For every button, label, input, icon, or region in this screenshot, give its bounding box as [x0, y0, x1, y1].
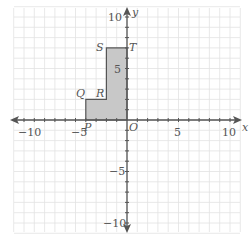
- y-axis-label: y: [131, 6, 139, 19]
- y-tick-label-neg10: −10: [103, 217, 126, 230]
- shape-pqrsto: [86, 48, 127, 120]
- x-tick-label-5: 5: [174, 126, 181, 139]
- coordinate-plane: x y −10 −5 5 10 10 5 −5 −10 O P Q R S T: [0, 0, 252, 247]
- x-axis-label: x: [242, 121, 249, 134]
- x-tick-label-10: 10: [222, 126, 236, 139]
- vertex-label-q: Q: [76, 87, 85, 100]
- vertex-label-r: R: [95, 87, 104, 100]
- y-tick-label-5: 5: [114, 63, 121, 76]
- vertex-label-p: P: [83, 121, 92, 134]
- origin-label: O: [129, 121, 138, 134]
- y-tick-label-neg5: −5: [109, 165, 125, 178]
- x-tick-label-neg10: −10: [18, 126, 41, 139]
- y-tick-label-10: 10: [108, 11, 122, 24]
- vertex-label-s: S: [96, 41, 104, 54]
